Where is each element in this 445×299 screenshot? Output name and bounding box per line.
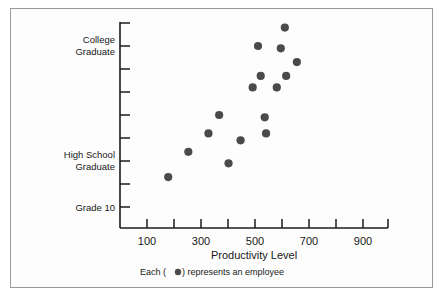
- data-point: [273, 83, 281, 91]
- data-point: [249, 83, 257, 91]
- y-label-college-line1: College: [83, 34, 115, 45]
- legend-prefix: Each (: [140, 267, 166, 277]
- x-tick-label-900: 900: [354, 235, 372, 247]
- data-point: [164, 173, 172, 181]
- data-point: [277, 44, 285, 52]
- y-label-highschool-line1: High School: [64, 149, 115, 160]
- x-tick-label-300: 300: [192, 235, 210, 247]
- data-point: [262, 129, 270, 137]
- data-points-layer: [164, 24, 301, 182]
- data-point: [293, 58, 301, 66]
- data-point: [237, 136, 245, 144]
- data-point: [204, 129, 212, 137]
- legend-marker-icon: [175, 269, 181, 275]
- data-point: [281, 24, 289, 32]
- data-point: [261, 113, 269, 121]
- y-label-highschool-line2: Graduate: [75, 161, 115, 172]
- scatter-plot-figure: College Graduate High School Graduate Gr…: [0, 0, 445, 299]
- x-tick-label-100: 100: [138, 235, 156, 247]
- x-axis-title: Productivity Level: [211, 249, 297, 261]
- x-tick-label-500: 500: [246, 235, 264, 247]
- data-point: [282, 72, 290, 80]
- data-point: [184, 148, 192, 156]
- y-axis-group: College Graduate High School Graduate Gr…: [64, 22, 130, 228]
- data-point: [224, 159, 232, 167]
- y-label-college-line2: Graduate: [75, 46, 115, 57]
- data-point: [215, 111, 223, 119]
- data-point: [257, 72, 265, 80]
- x-tick-label-700: 700: [300, 235, 318, 247]
- legend-group: Each ( ) represents an employee: [140, 267, 284, 277]
- legend-suffix: ) represents an employee: [182, 267, 284, 277]
- data-point: [254, 42, 262, 50]
- chart-canvas: College Graduate High School Graduate Gr…: [0, 0, 445, 299]
- x-axis-group: 100 300 500 700 900 Productivity Level: [120, 219, 388, 261]
- y-label-grade10: Grade 10: [75, 202, 115, 213]
